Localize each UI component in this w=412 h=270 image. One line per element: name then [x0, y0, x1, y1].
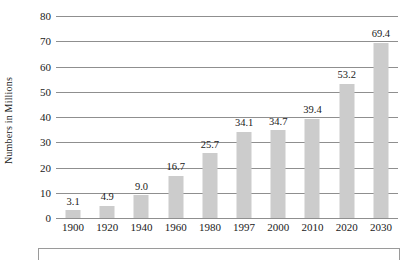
y-axis-tick-label: 0 — [46, 213, 52, 224]
bar-value-label: 9.0 — [135, 182, 148, 193]
y-axis-tick-label: 30 — [40, 137, 51, 148]
bar-value-label: 69.4 — [372, 29, 390, 40]
bar-chart-figure: Numbers in Millions 01020304050607080 3.… — [0, 0, 412, 270]
bar-slot: 9.0 — [124, 16, 158, 218]
x-axis-tick-label: 1920 — [96, 222, 118, 233]
bar — [237, 132, 252, 218]
y-axis-tick-label: 40 — [40, 112, 51, 123]
y-axis-tick-label: 10 — [40, 187, 51, 198]
x-axis-tick-label: 2030 — [370, 222, 392, 233]
x-axis-tick-label: 2020 — [336, 222, 358, 233]
y-axis-tick-label: 50 — [40, 86, 51, 97]
bar-value-label: 25.7 — [201, 140, 219, 151]
bar — [134, 195, 149, 218]
x-axis-tick-label: 1900 — [62, 222, 84, 233]
bar-slot: 34.1 — [227, 16, 261, 218]
bars-layer: 3.14.99.016.725.734.134.739.453.269.4 — [56, 16, 398, 218]
bar-value-label: 34.7 — [269, 117, 287, 128]
bar-slot: 4.9 — [90, 16, 124, 218]
bar-value-label: 53.2 — [338, 70, 356, 81]
bar — [339, 84, 354, 218]
bar-value-label: 3.1 — [67, 197, 80, 208]
bar — [373, 43, 388, 218]
bar — [305, 119, 320, 218]
bar — [271, 130, 286, 218]
bar-value-label: 4.9 — [101, 192, 114, 203]
bar-slot: 3.1 — [56, 16, 90, 218]
x-axis-bracket — [38, 248, 400, 260]
gridline: 0 — [56, 218, 398, 219]
y-axis-title-text: Numbers in Millions — [4, 76, 15, 163]
bar-slot: 16.7 — [159, 16, 193, 218]
y-axis-tick-label: 70 — [40, 36, 51, 47]
plot-area: 01020304050607080 3.14.99.016.725.734.13… — [56, 16, 398, 218]
x-axis-tick-label: 2000 — [267, 222, 289, 233]
bar-slot: 53.2 — [330, 16, 364, 218]
bar-value-label: 16.7 — [167, 162, 185, 173]
x-axis-tick-label: 1960 — [165, 222, 187, 233]
bar — [100, 206, 115, 218]
y-axis-title: Numbers in Millions — [0, 0, 18, 240]
y-axis-tick-label: 80 — [40, 11, 51, 22]
y-axis-tick-label: 60 — [40, 61, 51, 72]
x-axis-tick-label: 1940 — [131, 222, 153, 233]
bar-slot: 25.7 — [193, 16, 227, 218]
bar — [66, 210, 81, 218]
bar — [168, 176, 183, 218]
x-axis-tick-label: 1997 — [233, 222, 255, 233]
bar-value-label: 34.1 — [235, 118, 253, 129]
bar-slot: 34.7 — [261, 16, 295, 218]
bar-slot: 69.4 — [364, 16, 398, 218]
bar-value-label: 39.4 — [303, 105, 321, 116]
x-axis-tick-label: 1980 — [199, 222, 221, 233]
bar — [202, 153, 217, 218]
y-axis-tick-label: 20 — [40, 162, 51, 173]
bar-slot: 39.4 — [295, 16, 329, 218]
x-axis-labels: 1900192019401960198019972000201020202030 — [56, 222, 398, 240]
x-axis-tick-label: 2010 — [302, 222, 324, 233]
